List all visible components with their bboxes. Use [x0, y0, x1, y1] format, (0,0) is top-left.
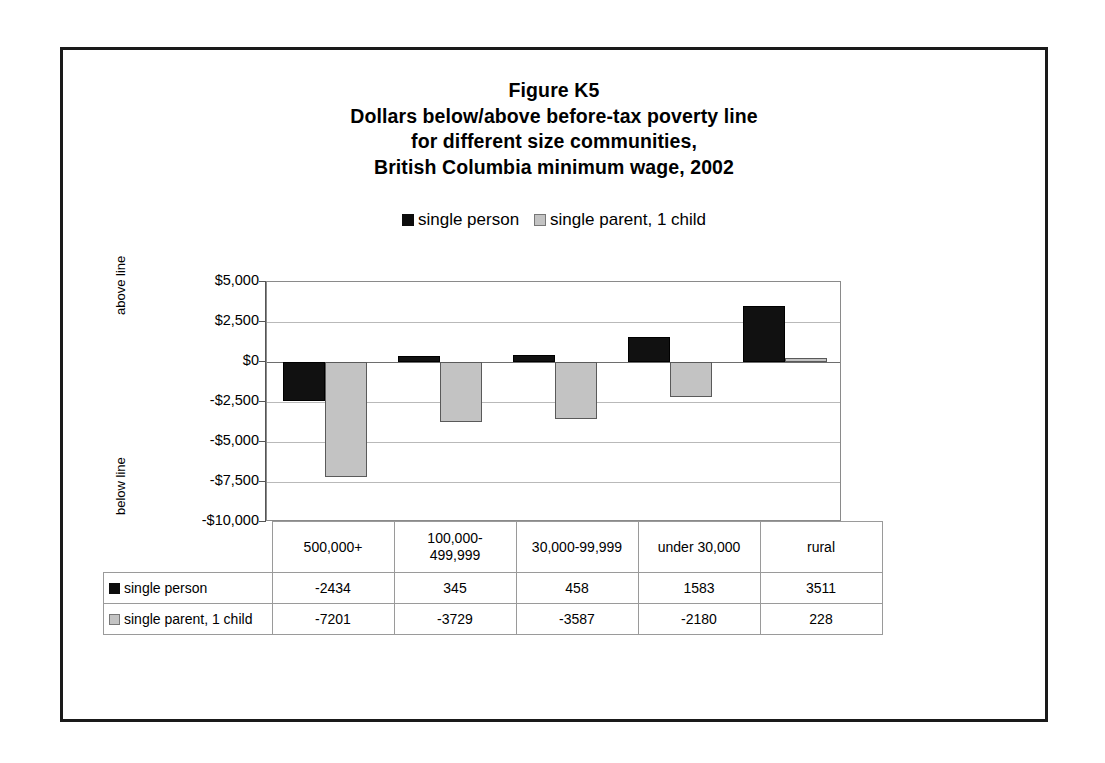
bar-group	[267, 282, 382, 520]
category-header-0: 500,000+	[272, 522, 394, 573]
y-tick-label: $0	[79, 352, 259, 368]
table-cell-1-3: -2180	[638, 604, 760, 635]
table-cell-0-2: 458	[516, 573, 638, 604]
title-line-2: Dollars below/above before-tax poverty l…	[63, 104, 1045, 130]
table-row-categories: 500,000+100,000-499,99930,000-99,999unde…	[104, 522, 883, 573]
bar-1-1	[440, 362, 482, 422]
y-tick-mark	[259, 521, 266, 522]
y-tick-mark	[259, 481, 266, 482]
bar-0-3	[628, 337, 670, 362]
legend-entry-single-person[interactable]: single person	[402, 210, 519, 230]
table-series-label-0: single person	[104, 573, 273, 604]
chart-title-block: Figure K5 Dollars below/above before-tax…	[63, 78, 1045, 180]
legend-label-single-person: single person	[418, 210, 519, 230]
figure-frame: Figure K5 Dollars below/above before-tax…	[60, 47, 1048, 722]
table-cell-0-0: -2434	[272, 573, 394, 604]
y-tick-label: $5,000	[79, 272, 259, 288]
bar-group	[497, 282, 612, 520]
y-axis-tick-labels: $5,000$2,500$0-$2,500-$5,000-$7,500-$10,…	[73, 281, 259, 521]
title-line-1: Figure K5	[63, 78, 1045, 104]
y-tick-mark	[259, 281, 266, 282]
legend-swatch-icon-single-parent	[534, 214, 546, 226]
table-cell-0-1: 345	[394, 573, 516, 604]
bar-0-0	[283, 362, 325, 401]
bar-1-0	[325, 362, 367, 477]
bar-0-2	[513, 355, 555, 362]
y-tick-label: -$7,500	[79, 472, 259, 488]
category-header-4: rural	[760, 522, 882, 573]
bar-1-2	[555, 362, 597, 419]
table-cell-1-1: -3729	[394, 604, 516, 635]
y-tick-mark	[259, 441, 266, 442]
bar-1-4	[785, 358, 827, 362]
table-row: single parent, 1 child-7201-3729-3587-21…	[104, 604, 883, 635]
title-line-4: British Columbia minimum wage, 2002	[63, 155, 1045, 181]
category-header-1: 100,000-499,999	[394, 522, 516, 573]
chart-legend: single person single parent, 1 child	[63, 210, 1045, 230]
table-cell-0-4: 3511	[760, 573, 882, 604]
table-cell-1-4: 228	[760, 604, 882, 635]
y-tick-mark	[259, 361, 266, 362]
bar-0-1	[398, 356, 440, 362]
table-swatch-icon-1	[109, 614, 120, 625]
data-table: 500,000+100,000-499,99930,000-99,999unde…	[103, 521, 883, 635]
bar-group	[612, 282, 727, 520]
legend-swatch-icon-single-person	[402, 214, 414, 226]
table-swatch-icon-0	[109, 583, 120, 594]
table-corner-cell	[104, 522, 273, 573]
bar-1-3	[670, 362, 712, 397]
table-cell-0-3: 1583	[638, 573, 760, 604]
y-tick-mark	[259, 401, 266, 402]
legend-entry-single-parent[interactable]: single parent, 1 child	[534, 210, 706, 230]
y-tick-mark	[259, 321, 266, 322]
title-line-3: for different size communities,	[63, 129, 1045, 155]
bar-group	[727, 282, 842, 520]
table-row: single person-243434545815833511	[104, 573, 883, 604]
legend-label-single-parent: single parent, 1 child	[550, 210, 706, 230]
category-header-2: 30,000-99,999	[516, 522, 638, 573]
table-cell-1-2: -3587	[516, 604, 638, 635]
table-cell-1-0: -7201	[272, 604, 394, 635]
y-tick-label: -$5,000	[79, 432, 259, 448]
data-table-body: 500,000+100,000-499,99930,000-99,999unde…	[104, 522, 883, 635]
category-header-3: under 30,000	[638, 522, 760, 573]
bar-0-4	[743, 306, 785, 362]
y-tick-label: -$2,500	[79, 392, 259, 408]
bar-group	[382, 282, 497, 520]
y-tick-label: $2,500	[79, 312, 259, 328]
table-series-label-1: single parent, 1 child	[104, 604, 273, 635]
plot-area	[266, 281, 841, 521]
